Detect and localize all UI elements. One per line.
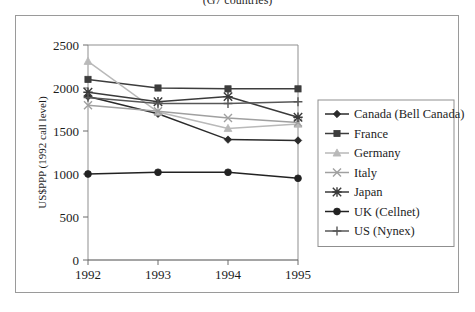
y-tick-label: 0 xyxy=(73,253,80,268)
x-tick-label: 1992 xyxy=(75,267,101,282)
plus-marker xyxy=(154,99,163,108)
circle-marker xyxy=(295,175,302,182)
y-tick-label: 1000 xyxy=(53,167,79,182)
asterisk-marker xyxy=(293,113,302,122)
figure-container: (G7 countries) 0500100015002000250019921… xyxy=(0,0,475,312)
series-line xyxy=(88,97,298,103)
square-marker xyxy=(295,86,301,92)
y-tick-label: 2500 xyxy=(53,38,79,53)
data-point-circle xyxy=(295,175,302,182)
legend-label: Japan xyxy=(354,185,383,199)
chart-canvas: 050010001500200025001992199319941995US$P… xyxy=(0,0,475,312)
y-tick-label: 1500 xyxy=(53,124,79,139)
data-point-square xyxy=(334,130,340,136)
series-uk-cellnet xyxy=(85,169,302,182)
diamond-marker xyxy=(294,137,301,144)
data-point-square xyxy=(295,86,301,92)
y-tick-label: 2000 xyxy=(53,81,79,96)
series-line xyxy=(88,61,298,128)
square-marker xyxy=(334,130,340,136)
circle-marker xyxy=(85,171,92,178)
square-marker xyxy=(155,85,161,91)
square-marker xyxy=(225,86,231,92)
data-point-circle xyxy=(155,169,162,176)
data-point-square xyxy=(85,76,91,82)
circle-marker xyxy=(334,208,341,215)
y-axis-title: US$PPP (1992 call level) xyxy=(36,96,49,209)
data-point-square xyxy=(155,85,161,91)
series-line xyxy=(88,172,298,178)
data-point-square xyxy=(225,86,231,92)
square-marker xyxy=(85,76,91,82)
legend-label: US (Nynex) xyxy=(354,224,415,238)
legend-label: Canada (Bell Canada) xyxy=(354,107,464,121)
data-point-asterisk xyxy=(332,187,341,196)
data-point-circle xyxy=(85,171,92,178)
series-us-nynex xyxy=(84,93,303,108)
data-point-circle xyxy=(225,169,232,176)
data-point-plus xyxy=(154,99,163,108)
data-point-circle xyxy=(334,208,341,215)
data-point-diamond xyxy=(294,137,301,144)
triangle-marker xyxy=(84,57,92,64)
legend-label: Germany xyxy=(354,146,401,160)
asterisk-marker xyxy=(332,187,341,196)
data-point-triangle xyxy=(84,57,92,64)
legend-label: UK (Cellnet) xyxy=(354,205,420,219)
plus-marker xyxy=(294,97,303,106)
x-tick-label: 1995 xyxy=(285,267,311,282)
data-point-plus xyxy=(84,93,93,102)
legend-label: Italy xyxy=(354,166,378,180)
series-japan xyxy=(83,88,302,122)
circle-marker xyxy=(155,169,162,176)
data-point-asterisk xyxy=(293,113,302,122)
x-tick-label: 1993 xyxy=(145,267,171,282)
plus-marker xyxy=(84,93,93,102)
series-italy xyxy=(84,101,302,126)
x-tick-label: 1994 xyxy=(215,267,242,282)
diamond-marker xyxy=(224,136,231,143)
data-point-plus xyxy=(294,97,303,106)
series-france xyxy=(85,76,301,92)
circle-marker xyxy=(225,169,232,176)
data-point-diamond xyxy=(224,136,231,143)
legend-label: France xyxy=(354,127,388,141)
plot-border xyxy=(88,45,298,260)
y-tick-label: 500 xyxy=(60,210,80,225)
